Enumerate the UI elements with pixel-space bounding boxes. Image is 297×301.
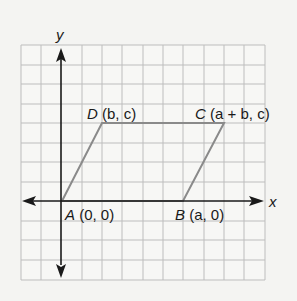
y-axis-label-text: y: [56, 26, 64, 43]
x-axis-label: x: [269, 194, 277, 209]
vertex-b-letter: B: [175, 206, 185, 223]
vertex-label-a: A (0, 0): [65, 207, 114, 222]
vertex-a-letter: A: [65, 206, 75, 223]
y-axis-label: y: [56, 27, 64, 42]
x-axis-label-text: x: [269, 193, 277, 210]
vertex-c-coords: (a + b, c): [210, 105, 270, 122]
vertex-d-letter: D: [87, 105, 98, 122]
vertex-b-coords: (a, 0): [189, 206, 224, 223]
vertex-d-coords: (b, c): [102, 105, 136, 122]
vertex-c-letter: C: [195, 105, 206, 122]
vertex-label-d: D (b, c): [87, 106, 136, 121]
coordinate-plane-svg: [0, 0, 297, 301]
vertex-label-c: C (a + b, c): [195, 106, 270, 121]
vertex-label-b: B (a, 0): [175, 207, 224, 222]
coordinate-plane-figure: y x D (b, c) C (a + b, c) A (0, 0) B (a,…: [0, 0, 297, 301]
vertex-a-coords: (0, 0): [79, 206, 114, 223]
